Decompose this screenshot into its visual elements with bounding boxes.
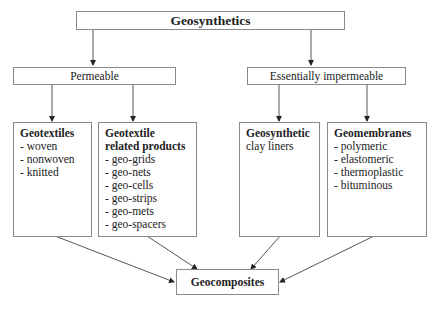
category-item: - woven (20, 140, 85, 153)
category-item: - nonwoven (20, 153, 85, 166)
category-item: - geo-mets (105, 205, 190, 218)
root-label: Geosynthetics (170, 13, 250, 29)
category-item: - geo-spacers (105, 218, 190, 231)
category-node-geotextiles: Geotextiles - woven - nonwoven - knitted (13, 122, 92, 237)
category-item: - geo-cells (105, 179, 190, 192)
group-label: Essentially impermeable (270, 70, 383, 82)
result-node-geocomposites: Geocomposites (176, 269, 279, 295)
category-title: Geosynthetic (246, 127, 313, 140)
group-node-permeable: Permeable (13, 67, 176, 85)
category-title: Geomembranes (334, 127, 420, 140)
category-title: Geotextiles (20, 127, 85, 140)
category-item: - thermoplastic (334, 166, 420, 179)
category-title: Geotextile related products (105, 127, 190, 153)
category-item: - geo-grids (105, 153, 190, 166)
category-node-geotextile-related-products: Geotextile related products - geo-grids … (98, 122, 197, 237)
category-item: - geo-nets (105, 166, 190, 179)
category-item: - knitted (20, 166, 85, 179)
category-subtitle: clay liners (246, 140, 313, 153)
category-node-geosynthetic-clay-liners: Geosynthetic clay liners (239, 122, 320, 237)
category-item: - polymeric (334, 140, 420, 153)
group-node-essentially-impermeable: Essentially impermeable (247, 67, 406, 85)
root-node-geosynthetics: Geosynthetics (76, 11, 345, 30)
result-label: Geocomposites (191, 276, 264, 288)
category-item: - elastomeric (334, 153, 420, 166)
category-node-geomembranes: Geomembranes - polymeric - elastomeric -… (327, 122, 427, 237)
group-label: Permeable (70, 70, 119, 82)
category-item: - bituminous (334, 179, 420, 192)
category-item: - geo-strips (105, 192, 190, 205)
